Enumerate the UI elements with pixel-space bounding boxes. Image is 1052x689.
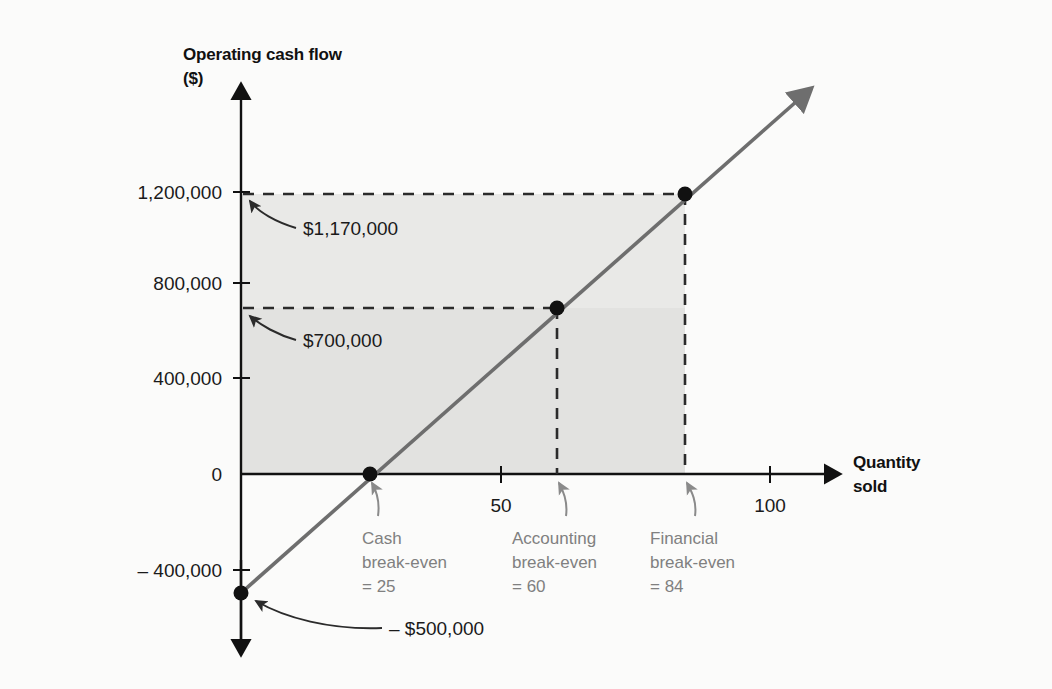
note-cash-line3: = 25 [362,577,396,596]
note-cash-line1: Cash [362,529,402,548]
annotation-label-1170000: $1,170,000 [303,218,398,239]
point-accounting-break-even [550,301,565,316]
point-cash-break-even [363,467,378,482]
note-financial-line2: break-even [650,553,735,572]
note-arrow-cash [372,483,379,516]
x-tick-labels: 50 100 [490,495,785,516]
shaded-region-upper [241,194,685,308]
point-financial-break-even [678,187,693,202]
point-intercept [234,586,249,601]
y-tick-labels: 1,200,000 800,000 400,000 0 – 400,000 [137,182,222,581]
chart-page: Operating cash flow ($) Quantity sold 1,… [0,0,1052,689]
annotation-arrow-minus500000 [256,601,382,628]
note-financial-line3: = 84 [650,577,684,596]
y-tick-label-800000: 800,000 [153,273,222,294]
x-tick-label-50: 50 [490,495,511,516]
annotation-label-700000: $700,000 [303,330,382,351]
y-tick-label-400000: 400,000 [153,368,222,389]
break-even-chart: Operating cash flow ($) Quantity sold 1,… [0,0,1052,689]
note-cash-line2: break-even [362,553,447,572]
note-accounting-line2: break-even [512,553,597,572]
note-accounting-line1: Accounting [512,529,596,548]
y-tick-label-1200000: 1,200,000 [137,182,222,203]
annotation-label-minus500000: – $500,000 [389,618,484,639]
x-axis-title-line2: sold [853,477,887,496]
note-arrow-financial [687,483,695,516]
x-tick-label-100: 100 [754,495,786,516]
y-axis-title-line2: ($) [183,69,203,88]
y-tick-label-minus400000: – 400,000 [137,560,222,581]
note-accounting-line3: = 60 [512,577,546,596]
note-arrow-accounting [559,483,567,516]
break-even-notes: Cash break-even = 25 Accounting break-ev… [362,483,735,596]
x-axis-title-line1: Quantity [853,453,921,472]
y-tick-label-0: 0 [211,464,222,485]
note-financial-line1: Financial [650,529,718,548]
y-axis-title-line1: Operating cash flow [183,45,343,64]
